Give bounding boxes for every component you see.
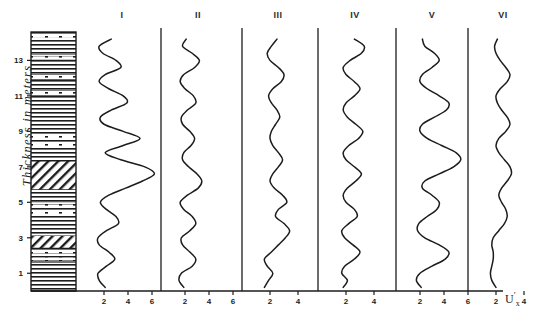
figure-root: Thickness in meters 135791113246I246II24… — [0, 0, 535, 326]
x-axis-tick-label: 6 — [462, 297, 474, 306]
marl-lens — [33, 258, 45, 261]
x-axis-tick-label: 4 — [122, 297, 134, 306]
lithology-bed — [31, 60, 76, 74]
profile-curve-VI — [490, 39, 511, 287]
marl-lens — [48, 56, 59, 59]
lithology-bed — [31, 133, 76, 149]
marl-lens — [33, 56, 45, 59]
panel-title-IV: IV — [350, 10, 360, 20]
marl-lens — [62, 258, 73, 261]
x-axis-tick-label: 4 — [438, 297, 450, 306]
lithology-bed — [31, 248, 76, 262]
marl-lens — [33, 35, 45, 38]
y-axis-tick-label: 5 — [9, 198, 23, 207]
y-axis-tick-label: 3 — [9, 233, 23, 242]
marl-lens — [62, 136, 73, 139]
lithology-bed — [31, 202, 76, 216]
x-axis — [31, 291, 524, 295]
marl-lens — [48, 92, 59, 95]
lithology-bed — [31, 149, 76, 161]
marl-lens — [48, 212, 59, 215]
marl-lens — [48, 258, 59, 261]
marl-lens — [48, 251, 59, 254]
marl-lens — [62, 92, 73, 95]
profile-curve-I — [97, 39, 154, 287]
lithology-bed — [31, 263, 76, 291]
y-axis-tick-label: 9 — [9, 127, 23, 136]
x-axis-tick-label: 2 — [340, 297, 352, 306]
marl-lens — [33, 144, 45, 147]
profile-curve-IV — [342, 39, 365, 287]
lithology-bed — [31, 190, 76, 202]
marl-lens — [62, 56, 73, 59]
marl-lens — [62, 35, 73, 38]
lithology-bed — [31, 80, 76, 91]
marl-lens — [33, 76, 45, 79]
x-axis-tick-label: 2 — [414, 297, 426, 306]
profile-curve-III — [264, 39, 289, 287]
x-axis-tick-label: 2 — [490, 297, 502, 306]
panel-title-VI: VI — [498, 10, 508, 20]
panel-title-II: II — [195, 10, 201, 20]
y-axis-tick-label: 13 — [9, 56, 23, 65]
panel-title-III: III — [273, 10, 282, 20]
marl-lens — [48, 35, 59, 38]
marl-lens — [33, 92, 45, 95]
y-axis-tick-label: 7 — [9, 162, 23, 171]
y-axis-tick-label: 1 — [9, 269, 23, 278]
panel-title-V: V — [429, 10, 436, 20]
marl-lens — [62, 76, 73, 79]
y-axis-tick-label: 11 — [9, 91, 23, 100]
lithology-bed — [31, 236, 76, 248]
profile-curve-V — [416, 39, 460, 287]
x-axis-tick-label: 2 — [98, 297, 110, 306]
profile-curve-II — [179, 39, 202, 287]
x-axis-unit-label: U′x — [505, 290, 520, 308]
marl-lens — [33, 204, 45, 207]
x-axis-tick-label: 4 — [518, 297, 530, 306]
x-axis-tick-label: 2 — [264, 297, 276, 306]
lithology-bed — [31, 216, 76, 236]
marl-lens — [48, 144, 59, 147]
marl-lens — [62, 212, 73, 215]
x-axis-tick-label: 6 — [227, 297, 239, 306]
plot-canvas — [0, 0, 535, 326]
lithology-bed — [31, 162, 76, 190]
marl-lens — [33, 251, 45, 254]
marl-lens — [48, 76, 59, 79]
x-axis-tick-label: 4 — [292, 297, 304, 306]
marl-lens — [62, 251, 73, 254]
marl-lens — [48, 204, 59, 207]
marl-lens — [48, 136, 59, 139]
x-axis-tick-label: 2 — [179, 297, 191, 306]
x-axis-tick-label: 4 — [203, 297, 215, 306]
marl-lens — [62, 204, 73, 207]
marl-lens — [33, 212, 45, 215]
marl-lens — [62, 144, 73, 147]
marl-lens — [33, 136, 45, 139]
x-axis-tick-label: 4 — [368, 297, 380, 306]
lithology-bed — [31, 41, 76, 55]
curve-panels — [97, 28, 511, 291]
lithology-beds — [31, 32, 76, 291]
lithology-bed — [31, 96, 76, 133]
panel-title-I: I — [120, 10, 123, 20]
x-axis-tick-label: 6 — [146, 297, 158, 306]
